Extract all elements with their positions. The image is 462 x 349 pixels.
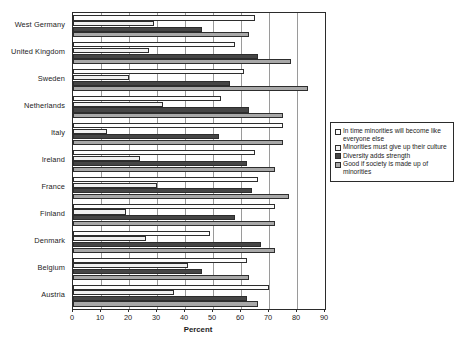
bar xyxy=(73,248,275,253)
bar xyxy=(73,69,244,74)
axis-tick-label: 20 xyxy=(124,313,132,322)
category-label: Finland xyxy=(40,210,65,218)
legend-swatch-icon xyxy=(335,162,341,168)
bar-group xyxy=(73,67,325,94)
category-label: Netherlands xyxy=(24,102,65,110)
axis-tick-label: 10 xyxy=(96,313,104,322)
category-label: Italy xyxy=(51,129,65,137)
bar xyxy=(73,258,247,263)
horizontal-bar-chart: West GermanyUnited KingdomSwedenNetherla… xyxy=(0,0,462,349)
axis-tick xyxy=(128,309,129,312)
category-label: Austria xyxy=(41,291,65,299)
bar-group xyxy=(73,94,325,121)
category-label: Ireland xyxy=(42,156,65,164)
bar xyxy=(73,183,157,188)
legend-swatch-icon xyxy=(335,153,341,159)
bar xyxy=(73,231,210,236)
bar xyxy=(73,188,252,193)
bar xyxy=(73,290,174,295)
bar xyxy=(73,48,149,53)
bar-group xyxy=(73,201,325,228)
axis-tick-label: 40 xyxy=(180,313,188,322)
bar xyxy=(73,96,221,101)
legend-item[interactable]: Minorities must give up their culture xyxy=(335,143,450,151)
bar-group xyxy=(73,255,325,282)
bar xyxy=(73,236,146,241)
bar-group xyxy=(73,148,325,175)
bar xyxy=(73,296,247,301)
bar xyxy=(73,32,249,37)
plot-area xyxy=(72,12,326,310)
bar xyxy=(73,209,126,214)
category-label: United Kingdom xyxy=(11,48,65,56)
category-label: France xyxy=(41,183,65,191)
legend-label: Diversity adds strength xyxy=(343,152,410,160)
bar xyxy=(73,27,202,32)
legend-item[interactable]: Good if society is made up of minorities xyxy=(335,160,450,175)
bar xyxy=(73,15,255,20)
axis-tick-label: 60 xyxy=(236,313,244,322)
axis-tick-label: 30 xyxy=(152,313,160,322)
bar xyxy=(73,301,258,306)
bar xyxy=(73,129,107,134)
bar xyxy=(73,242,261,247)
bar xyxy=(73,177,258,182)
axis-tick xyxy=(184,309,185,312)
bar-group xyxy=(73,174,325,201)
bar xyxy=(73,107,249,112)
bar xyxy=(73,113,283,118)
category-label: Belgium xyxy=(38,264,65,272)
bar xyxy=(73,285,269,290)
bar xyxy=(73,156,140,161)
category-label: Sweden xyxy=(38,75,65,83)
bar-group xyxy=(73,282,325,309)
axis-tick xyxy=(100,309,101,312)
bar xyxy=(73,161,247,166)
legend-label: Good if society is made up of minorities xyxy=(343,160,450,175)
bar xyxy=(73,42,235,47)
legend-label: Minorities must give up their culture xyxy=(343,143,447,151)
bar xyxy=(73,215,235,220)
axis-tick-label: 90 xyxy=(320,313,328,322)
bar xyxy=(73,59,291,64)
axis-tick-label: 50 xyxy=(208,313,216,322)
bar xyxy=(73,150,255,155)
bar xyxy=(73,123,283,128)
bar xyxy=(73,54,258,59)
axis-tick xyxy=(156,309,157,312)
bar xyxy=(73,194,289,199)
bar xyxy=(73,21,154,26)
bar xyxy=(73,269,202,274)
bar-group xyxy=(73,40,325,67)
bar-group xyxy=(73,121,325,148)
legend-label: In time minorities will become like ever… xyxy=(343,127,450,142)
axis-tick xyxy=(268,309,269,312)
category-label: Denmark xyxy=(34,237,65,245)
bar xyxy=(73,134,219,139)
axis-title-percent: Percent xyxy=(72,325,324,334)
bar xyxy=(73,263,188,268)
bar xyxy=(73,86,308,91)
bar xyxy=(73,140,283,145)
bar xyxy=(73,81,230,86)
legend-swatch-icon xyxy=(335,145,341,151)
axis-tick xyxy=(296,309,297,312)
axis-tick xyxy=(212,309,213,312)
axis-tick xyxy=(240,309,241,312)
axis-tick-label: 70 xyxy=(264,313,272,322)
bar xyxy=(73,204,275,209)
legend-swatch-icon xyxy=(335,129,341,135)
legend-item[interactable]: In time minorities will become like ever… xyxy=(335,127,450,142)
category-axis-labels: West GermanyUnited KingdomSwedenNetherla… xyxy=(0,12,68,308)
legend-item[interactable]: Diversity adds strength xyxy=(335,152,450,160)
axis-tick-label: 0 xyxy=(70,313,74,322)
bar xyxy=(73,102,163,107)
bar xyxy=(73,75,129,80)
axis-tick xyxy=(324,309,325,312)
bar xyxy=(73,167,275,172)
bar xyxy=(73,275,249,280)
category-label: West Germany xyxy=(15,21,65,29)
axis-tick xyxy=(72,309,73,312)
axis-tick-label: 80 xyxy=(292,313,300,322)
bar-group xyxy=(73,13,325,40)
